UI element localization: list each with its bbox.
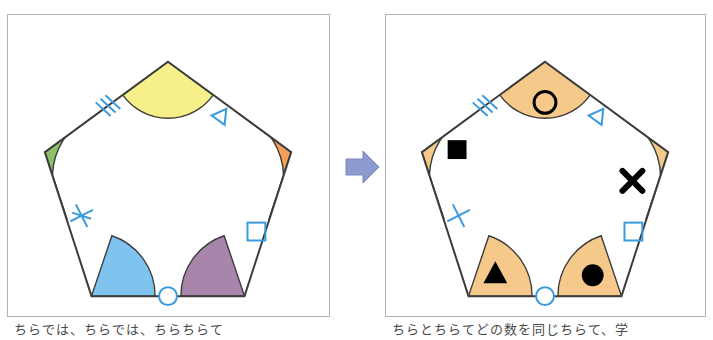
angle-wedge-lower-left-vertex: [92, 236, 156, 296]
angle-wedge-upper-right-vertex: [613, 112, 668, 219]
angle-wedge-lower-right-vertex: [181, 236, 245, 296]
edge-mark-circle: [159, 287, 177, 305]
vertex-symbol-filled-square-icon: [448, 140, 467, 159]
caption-row: ちらでは、ちらでは、ちらちらて ちらとちらてどの数を同じちらて、学: [0, 322, 713, 340]
edge-mark-cross: [69, 204, 93, 227]
angle-wedges-left: [45, 62, 291, 296]
caption-left: ちらでは、ちらでは、ちらちらて: [14, 322, 224, 337]
angle-wedge-upper-left-vertex: [45, 112, 100, 219]
vertex-symbol-filled-circle-icon: [582, 264, 604, 286]
caption-right: ちらとちらてどの数を同じちらて、学: [392, 322, 629, 337]
angle-wedge-top-vertex: [123, 62, 214, 119]
vertex-symbol-cross-icon: [622, 171, 642, 191]
angle-wedge-upper-left-vertex: [422, 112, 477, 219]
transformation-arrow-wrap: [344, 148, 382, 186]
panel-right-symbol-pentagon: [385, 14, 706, 317]
left-pentagon-diagram: [8, 15, 329, 316]
arrow-right-icon: [344, 148, 382, 186]
panel-left-colored-pentagon: [7, 14, 330, 317]
edge-mark-cross: [447, 204, 470, 227]
right-pentagon-diagram: [386, 15, 705, 316]
angle-wedge-lower-left-vertex: [469, 236, 533, 296]
vertex-symbols-right: [448, 91, 643, 286]
edge-mark-triple-tick: [96, 93, 121, 118]
edge-mark-triple-tick: [473, 93, 498, 118]
angle-wedge-top-vertex: [500, 62, 591, 119]
edge-mark-circle: [536, 287, 554, 305]
angle-wedge-upper-right-vertex: [236, 112, 291, 219]
